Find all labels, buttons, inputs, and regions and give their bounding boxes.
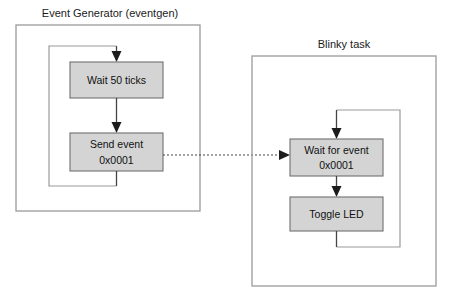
flowchart-svg: Event Generator (eventgen) Wait 50 ticks… (0, 0, 450, 304)
waitevent-to-toggle-arrowhead (332, 186, 342, 197)
eventgen-container (16, 25, 200, 211)
node-wait-for-event-label-line2: 0x0001 (319, 159, 354, 171)
node-send-event-label-line2: 0x0001 (99, 154, 134, 166)
node-wait-for-event-label-line1: Wait for event (304, 144, 368, 156)
blinky-loop-entry-arrowhead (332, 128, 342, 139)
node-wait-50-ticks-label: Wait 50 ticks (87, 74, 146, 86)
node-send-event-label-line1: Send event (90, 138, 143, 150)
blinky-container-label: Blinky task (318, 38, 371, 50)
eventgen-loop-entry-arrowhead (112, 51, 122, 62)
wait-to-send-arrowhead (112, 122, 122, 133)
diagram-canvas: Event Generator (eventgen) Wait 50 ticks… (0, 0, 450, 304)
eventgen-container-label: Event Generator (eventgen) (42, 7, 178, 19)
event-signal-arrowhead (279, 150, 290, 160)
node-toggle-led-label: Toggle LED (309, 208, 364, 220)
